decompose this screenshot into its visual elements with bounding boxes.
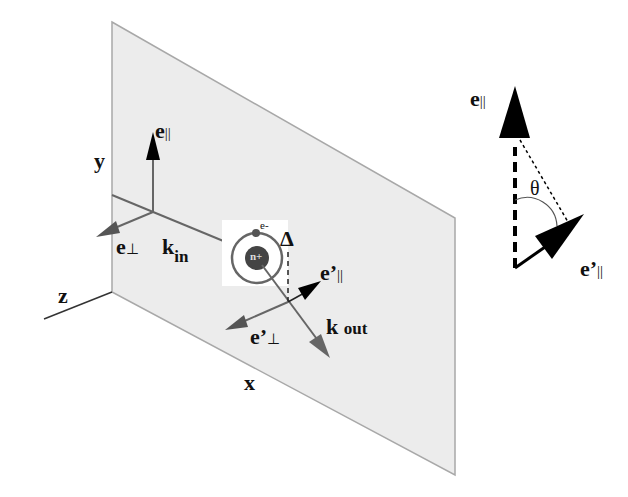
inset-theta-arc (515, 197, 557, 226)
k-out-label: k out (326, 316, 367, 338)
ion-label: n+ (250, 251, 262, 262)
e-perp-out-label: e’⊥ (250, 326, 280, 348)
inset-e-par-prime-label: e’|| (580, 258, 603, 280)
e-par-out-label: e’|| (320, 262, 343, 284)
diagram-graphics (0, 0, 628, 497)
inset-e-par-arrowhead (499, 86, 530, 138)
inset-e-par-prime-shaft (515, 247, 545, 268)
e-par-in-label: e|| (155, 120, 171, 142)
diagram-canvas: y z x e|| e⊥ kin e- n+ Δ e’|| e’⊥ k out … (0, 0, 628, 497)
k-in-label: kin (162, 236, 188, 258)
inset-e-par-label: e|| (470, 88, 486, 110)
x-axis-label: x (244, 372, 255, 394)
delta-label: Δ (280, 228, 294, 250)
electron-label: e- (260, 220, 269, 231)
e-perp-in-label: e⊥ (116, 236, 139, 258)
electron (252, 229, 260, 237)
z-axis-line (44, 292, 112, 319)
inset-e-par-prime-arrowhead (535, 214, 584, 259)
y-axis-label: y (94, 150, 105, 172)
z-axis-label: z (58, 285, 68, 307)
inset-theta-label: θ (530, 178, 540, 198)
inset-projection-dotted (520, 140, 568, 222)
